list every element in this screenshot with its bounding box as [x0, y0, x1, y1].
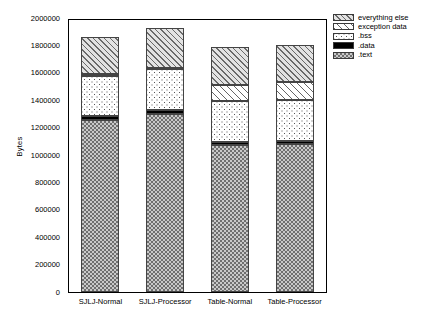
y-tick-label: 1400000 — [31, 96, 60, 105]
y-tick: 0 — [0, 293, 68, 294]
legend-swatch — [333, 52, 354, 59]
y-tick-label: 2000000 — [31, 14, 60, 23]
bar-segment[interactable] — [211, 145, 249, 292]
bar-segment[interactable] — [276, 45, 314, 83]
bar-segment[interactable] — [81, 120, 119, 292]
bar-segment[interactable] — [276, 144, 314, 292]
bar-sjlj-processor[interactable] — [146, 18, 184, 292]
y-tick: 1600000 — [0, 74, 68, 75]
legend-swatch — [333, 42, 354, 49]
y-tick-label: 1200000 — [31, 123, 60, 132]
bar-table-normal[interactable] — [211, 18, 249, 292]
y-tick: 200000 — [0, 266, 68, 267]
bar-segment[interactable] — [81, 37, 119, 74]
y-tick: 1200000 — [0, 129, 68, 130]
legend-label: everything else — [358, 13, 408, 23]
y-tick-label: 200000 — [35, 260, 60, 269]
chart-legend: everything elseexception data.bss.data.t… — [333, 13, 432, 60]
y-tick-label: 600000 — [35, 205, 60, 214]
y-axis-label: Bytes — [15, 117, 24, 177]
legend-swatch — [333, 33, 354, 40]
legend-label: .text — [358, 50, 372, 60]
y-tick-label: 800000 — [35, 178, 60, 187]
y-tick: 600000 — [0, 211, 68, 212]
y-tick-label: 1000000 — [31, 151, 60, 160]
plot-area — [68, 19, 327, 293]
y-tick: 400000 — [0, 238, 68, 239]
legend-swatch — [333, 14, 354, 21]
y-tick: 1800000 — [0, 46, 68, 47]
bar-segment[interactable] — [276, 100, 314, 140]
legend-label: .bss — [358, 31, 372, 41]
bar-segment[interactable] — [211, 142, 249, 145]
bar-segment[interactable] — [81, 76, 119, 116]
legend-label: exception data — [358, 22, 407, 32]
bar-sjlj-normal[interactable] — [81, 18, 119, 292]
bar-segment[interactable] — [146, 110, 184, 113]
y-tick: 2000000 — [0, 19, 68, 20]
y-tick-label: 1600000 — [31, 68, 60, 77]
bar-segment[interactable] — [211, 101, 249, 142]
legend-label: .data — [358, 41, 375, 51]
bar-segment[interactable] — [146, 114, 184, 292]
y-tick: 1400000 — [0, 101, 68, 102]
y-tick-label: 400000 — [35, 233, 60, 242]
legend-item: everything else — [333, 13, 432, 22]
x-tick-label: Table-Processor — [250, 297, 340, 306]
bar-segment[interactable] — [81, 74, 119, 76]
bar-segment[interactable] — [146, 69, 184, 110]
y-tick: 800000 — [0, 183, 68, 184]
legend-item: exception data — [333, 22, 432, 31]
y-tick-label: 0 — [56, 288, 60, 297]
bar-segment[interactable] — [276, 141, 314, 144]
bar-table-processor[interactable] — [276, 18, 314, 292]
chart-figure: Bytes 2000000180000016000001400000120000… — [0, 0, 432, 321]
y-tick-label: 1800000 — [31, 41, 60, 50]
legend-item: .bss — [333, 32, 432, 41]
legend-item: .text — [333, 51, 432, 60]
y-tick: 1000000 — [0, 156, 68, 157]
bar-segment[interactable] — [81, 116, 119, 120]
bar-segment[interactable] — [146, 28, 184, 68]
legend-swatch — [333, 23, 354, 30]
bar-segment[interactable] — [211, 85, 249, 101]
bar-segment[interactable] — [211, 47, 249, 85]
bar-segment[interactable] — [276, 82, 314, 100]
legend-item: .data — [333, 41, 432, 50]
